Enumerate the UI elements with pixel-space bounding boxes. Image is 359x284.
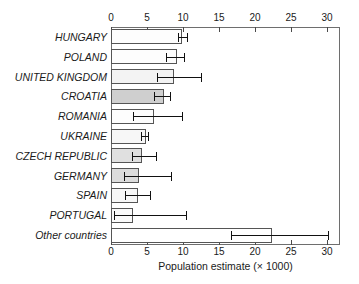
- bar: [111, 29, 182, 44]
- error-bar-cap: [156, 152, 157, 161]
- error-bar-line: [114, 215, 186, 216]
- x-axis-title: Population estimate (× 1000): [111, 260, 340, 272]
- x-axis-tick-label: 25: [285, 247, 296, 257]
- error-bar-line: [157, 77, 201, 78]
- y-axis-category-label: SPAIN: [0, 190, 107, 201]
- error-bar-cap: [170, 92, 171, 101]
- x-axis-tick-label: 30: [321, 13, 332, 23]
- error-bar-cap: [186, 211, 187, 220]
- error-bar-cap: [231, 231, 232, 240]
- y-axis-category-label: PORTUGAL: [0, 210, 107, 221]
- error-bar-cap: [171, 172, 172, 181]
- x-axis-tick-label: 15: [213, 13, 224, 23]
- error-bar-line: [124, 176, 172, 177]
- y-axis-category-label: ROMANIA: [0, 111, 107, 122]
- x-axis-tick-label: 0: [108, 13, 114, 23]
- error-bar-cap: [187, 33, 188, 42]
- error-bar-cap: [178, 33, 179, 42]
- x-axis-tick-label: 10: [177, 13, 188, 23]
- y-axis-category-label: CROATIA: [0, 91, 107, 102]
- bars-layer: [111, 27, 340, 245]
- x-axis-tick-label: 5: [144, 247, 150, 257]
- error-bar-line: [133, 116, 182, 117]
- error-bar-line: [141, 136, 148, 137]
- error-bar-line: [231, 235, 328, 236]
- error-bar-cap: [148, 132, 149, 141]
- error-bar-line: [125, 195, 149, 196]
- x-axis-tick-label: 20: [249, 247, 260, 257]
- error-bar-line: [132, 156, 156, 157]
- error-bar-cap: [141, 132, 142, 141]
- error-bar-line: [154, 96, 170, 97]
- error-bar-cap: [201, 73, 202, 82]
- error-bar-cap: [157, 73, 158, 82]
- error-bar-cap: [328, 231, 329, 240]
- y-axis-category-label: HUNGARY: [0, 31, 107, 42]
- error-bar-cap: [166, 53, 167, 62]
- x-axis-tick-label: 15: [213, 247, 224, 257]
- error-bar-cap: [133, 112, 134, 121]
- error-bar-cap: [124, 172, 125, 181]
- error-bar-cap: [132, 152, 133, 161]
- x-axis-tick-label: 5: [144, 13, 150, 23]
- error-bar-line: [178, 37, 187, 38]
- y-axis-category-label: UKRAINE: [0, 131, 107, 142]
- y-axis-category-label: Other countries: [0, 230, 107, 241]
- error-bar-cap: [125, 191, 126, 200]
- x-axis-tick-label: 30: [321, 247, 332, 257]
- x-axis-tick-label: 10: [177, 247, 188, 257]
- y-axis-category-label: POLAND: [0, 51, 107, 62]
- y-axis-category-label: CZECH REPUBLIC: [0, 150, 107, 161]
- population-estimate-bar-chart: 051015202530 051015202530 HUNGARYPOLANDU…: [0, 0, 359, 284]
- error-bar-cap: [150, 191, 151, 200]
- error-bar-cap: [154, 92, 155, 101]
- x-axis-tick-label: 20: [249, 13, 260, 23]
- error-bar-cap: [184, 53, 185, 62]
- y-axis-category-label: UNITED KINGDOM: [0, 71, 107, 82]
- error-bar-line: [166, 57, 185, 58]
- error-bar-cap: [114, 211, 115, 220]
- x-axis-tick-label: 0: [108, 247, 114, 257]
- x-axis-tick-label: 25: [285, 13, 296, 23]
- error-bar-cap: [182, 112, 183, 121]
- y-axis-category-label: GERMANY: [0, 170, 107, 181]
- y-axis-category-labels: HUNGARYPOLANDUNITED KINGDOMCROATIAROMANI…: [0, 27, 107, 245]
